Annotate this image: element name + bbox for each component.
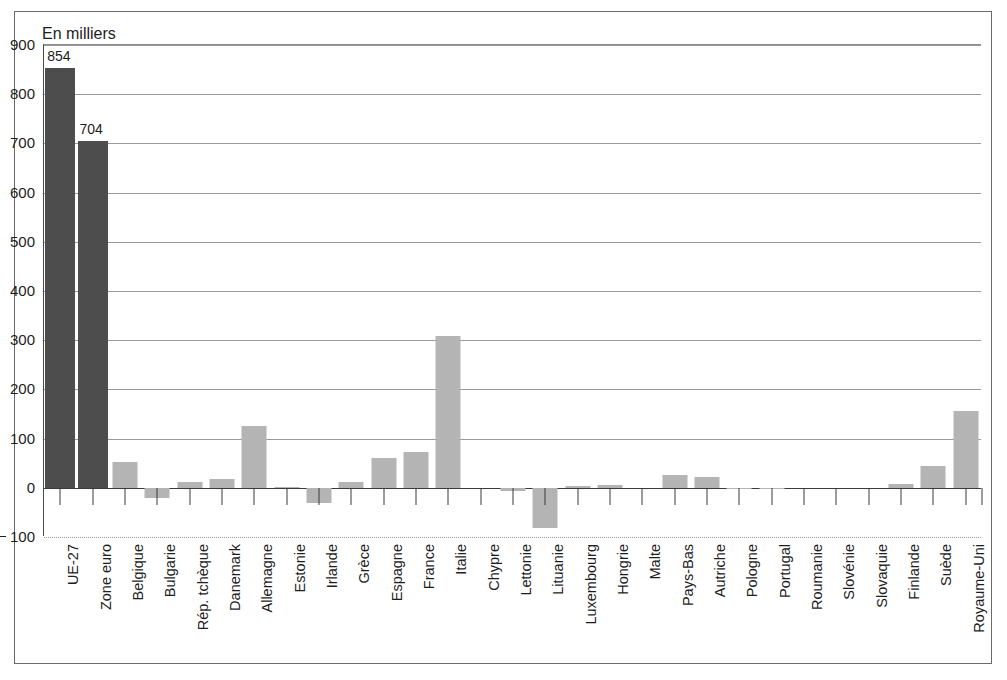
x-axis-tick [707, 488, 708, 505]
x-axis-tick [836, 488, 837, 505]
x-axis-tick [610, 488, 611, 505]
x-axis-tick [868, 488, 869, 505]
x-axis-tick [771, 488, 772, 505]
x-axis-tick [901, 488, 902, 505]
bar-slot [497, 45, 529, 536]
x-axis-tick [739, 488, 740, 505]
x-category-label: Estonie [292, 496, 308, 544]
x-axis-tick [642, 488, 643, 505]
bar-slot [820, 45, 852, 536]
bar-slot: 704 [76, 45, 108, 536]
x-category-label: Belgique [130, 488, 146, 544]
x-axis-tick [92, 488, 93, 505]
y-tick-label: 200 [10, 380, 35, 397]
bar-slot [464, 45, 496, 536]
bar-slot [141, 45, 173, 536]
bar [112, 462, 137, 488]
bar [78, 141, 108, 487]
x-category-label: Rép. tchèque [195, 458, 211, 544]
bar-series: 854704 [44, 45, 981, 536]
x-category-label: Roumanie [809, 478, 825, 544]
x-axis-tick [351, 488, 352, 505]
x-category-label: Autriche [712, 491, 728, 544]
x-category-label: Royaume-Uni [971, 455, 987, 544]
x-axis-tick [804, 488, 805, 505]
y-tick-label: 900 [10, 36, 35, 53]
x-category-label: Slovaquie [874, 480, 890, 544]
x-category-label: UE-27 [65, 503, 81, 544]
x-category-label: Malte [647, 509, 663, 544]
x-axis-tick [545, 488, 546, 505]
unit-caption: En milliers [42, 25, 116, 43]
x-axis-tick [254, 488, 255, 505]
bar-slot [626, 45, 658, 536]
bar-slot [367, 45, 399, 536]
bar-slot [335, 45, 367, 536]
x-category-label: Allemagne [259, 475, 275, 544]
plot-area: 854704 [43, 44, 981, 536]
x-axis-tick [577, 488, 578, 505]
x-category-label: Suède [938, 502, 954, 544]
y-axis-tick-labels: 9008007006005004003002001000100 [0, 0, 43, 680]
bar [371, 458, 396, 488]
bar-slot [853, 45, 885, 536]
x-axis-tick [157, 488, 158, 505]
bar-value-label: 704 [80, 121, 103, 137]
x-axis-tick [383, 488, 384, 505]
x-category-label: Pays-Bas [680, 482, 696, 544]
bar-slot [109, 45, 141, 536]
bar-slot [756, 45, 788, 536]
x-category-label: France [421, 499, 437, 544]
bar-slot [885, 45, 917, 536]
x-axis-tick [189, 488, 190, 505]
x-axis-tick [965, 488, 966, 505]
x-category-label: Hongrie [615, 493, 631, 544]
bar-slot [529, 45, 561, 536]
chart-page: En milliers 9008007006005004003002001000… [0, 0, 1007, 680]
bar-slot [788, 45, 820, 536]
y-tick-label: 100 [10, 429, 35, 446]
x-category-label: Lituanie [550, 493, 566, 544]
bar-slot [691, 45, 723, 536]
y-tick-label: 600 [10, 183, 35, 200]
x-category-label: Italie [453, 513, 469, 544]
bar-slot [432, 45, 464, 536]
y-tick-label: 300 [10, 331, 35, 348]
y-tick-label: 800 [10, 85, 35, 102]
bar-slot [659, 45, 691, 536]
bar-slot [594, 45, 626, 536]
x-category-label: Slovénie [841, 488, 857, 544]
x-axis-tick [415, 488, 416, 505]
bar-slot [270, 45, 302, 536]
x-category-label: Chypre [486, 497, 502, 544]
bar-slot [400, 45, 432, 536]
y-tick-label: 0 [27, 478, 35, 495]
x-axis-tick [448, 488, 449, 505]
bar [403, 452, 428, 488]
y-tick-label: 700 [10, 134, 35, 151]
bar-slot [917, 45, 949, 536]
x-category-label: Lettonie [518, 492, 534, 544]
bar [45, 68, 75, 488]
bar [695, 477, 720, 488]
x-axis-tick [221, 488, 222, 505]
x-axis-tick [124, 488, 125, 505]
bar [921, 466, 946, 488]
x-category-label: Irlande [324, 500, 340, 544]
y-tick-label: 500 [10, 232, 35, 249]
x-axis-tick [674, 488, 675, 505]
bar-value-label: 854 [47, 48, 70, 64]
x-axis-category-labels: UE-27Zone euroBelgiqueBulgarieRép. tchèq… [43, 536, 981, 676]
bar [436, 336, 461, 488]
bar-slot [303, 45, 335, 536]
x-axis-tick [60, 488, 61, 505]
x-category-label: Finlande [906, 488, 922, 544]
minus-sign-icon [0, 536, 6, 537]
x-axis-tick [480, 488, 481, 505]
x-category-label: Grèce [356, 505, 372, 545]
bar-slot: 854 [44, 45, 76, 536]
x-axis-tick [318, 488, 319, 505]
x-axis-tick [933, 488, 934, 505]
x-axis-tick [512, 488, 513, 505]
x-category-label: Portugal [777, 490, 793, 544]
